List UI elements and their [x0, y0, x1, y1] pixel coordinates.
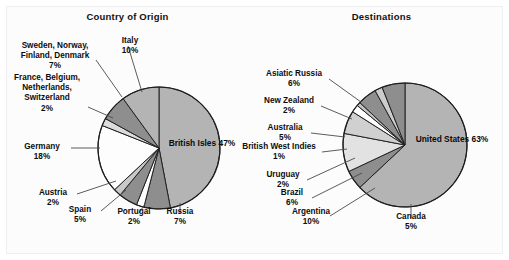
- label-russia-pct: 7%: [159, 217, 201, 227]
- label-canada-pct: 5%: [387, 222, 435, 232]
- label-germany-name: Germany: [24, 142, 60, 151]
- label-british-isles: British Isles 47%: [164, 138, 240, 148]
- label-germany: Germany 18%: [14, 142, 70, 162]
- label-italy-name: Italy: [122, 36, 138, 45]
- label-asiatic-russia-name: Asiatic Russia: [266, 69, 322, 78]
- label-british-west-indies-pct: 1%: [236, 152, 322, 162]
- chart-title-country-of-origin: Country of Origin: [0, 11, 255, 22]
- label-asiatic-russia: Asiatic Russia 6%: [258, 69, 330, 89]
- chart-title-destinations: Destinations: [254, 11, 509, 22]
- label-new-zealand-name: New Zealand: [264, 96, 314, 105]
- label-british-isles-name: British Isles: [169, 138, 216, 148]
- label-russia-name: Russia: [167, 207, 194, 216]
- label-new-zealand-pct: 2%: [256, 106, 322, 116]
- label-spain-pct: 5%: [60, 215, 100, 225]
- label-france-benelux: France, Belgium, Netherlands, Switzerlan…: [4, 73, 90, 114]
- label-british-west-indies-name: British West Indies: [242, 142, 316, 151]
- label-france-line1: France, Belgium,: [14, 73, 80, 82]
- label-argentina-pct: 10%: [283, 217, 339, 227]
- label-germany-pct: 18%: [14, 152, 70, 162]
- label-brazil-name: Brazil: [281, 188, 303, 197]
- label-new-zealand: New Zealand 2%: [256, 96, 322, 116]
- label-scandinavia-line1: Sweden, Norway,: [22, 41, 89, 50]
- label-france-line2: Netherlands,: [22, 83, 72, 92]
- label-italy: Italy 10%: [104, 36, 156, 56]
- label-scandinavia: Sweden, Norway, Finland, Denmark 7%: [12, 41, 98, 72]
- label-asiatic-russia-pct: 6%: [258, 79, 330, 89]
- label-australia-name: Australia: [267, 123, 302, 132]
- label-argentina-name: Argentina: [292, 207, 330, 216]
- pie-chart-figure: Country of Origin Italy 10% Sweden, Norw…: [0, 0, 509, 260]
- label-italy-pct: 10%: [104, 46, 156, 56]
- label-british-isles-pct: 47%: [219, 138, 236, 148]
- label-brazil: Brazil 6%: [271, 188, 313, 208]
- label-france-pct: 2%: [4, 104, 90, 114]
- label-portugal-pct: 2%: [108, 217, 160, 227]
- label-canada: Canada 5%: [387, 212, 435, 232]
- label-united-states: United States 63%: [409, 134, 495, 144]
- label-uruguay-name: Uruguay: [266, 170, 299, 179]
- label-france-line3: Switzerland: [24, 93, 70, 102]
- label-united-states-name: United States: [416, 134, 470, 144]
- label-united-states-pct: 63%: [472, 134, 489, 144]
- label-spain: Spain 5%: [60, 205, 100, 225]
- label-british-west-indies: British West Indies 1%: [236, 142, 322, 162]
- label-portugal: Portugal 2%: [108, 207, 160, 227]
- label-portugal-name: Portugal: [117, 207, 150, 216]
- label-australia: Australia 5%: [258, 123, 312, 143]
- label-spain-name: Spain: [69, 205, 91, 214]
- label-scandinavia-line2: Finland, Denmark: [21, 51, 90, 60]
- label-scandinavia-pct: 7%: [12, 61, 98, 71]
- label-russia: Russia 7%: [159, 207, 201, 227]
- label-canada-name: Canada: [396, 212, 426, 221]
- label-austria-name: Austria: [39, 188, 67, 197]
- label-argentina: Argentina 10%: [283, 207, 339, 227]
